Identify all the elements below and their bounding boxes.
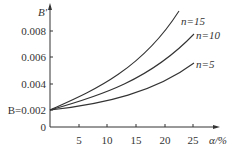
series-label-n10: n=10 [196,29,220,41]
series-label-n5: n=5 [196,58,215,70]
curve-n5 [50,63,194,110]
y-tick-label: 0.004 [21,78,46,90]
chart: B′ 0.008 0.006 0.004 B=0.002 0 5 10 15 2… [0,0,237,152]
series-label-n15: n=15 [181,15,205,27]
y-tick-label: 0.008 [21,25,46,37]
x-axis-arrow-icon [213,125,220,129]
curve-n15 [50,11,179,110]
y-axis-label: B′ [38,6,48,18]
x-tick-label: 5 [76,134,82,146]
x-tick-label: 25 [188,134,200,146]
x-tick-label: 15 [131,134,143,146]
y-tick-label: B=0.002 [8,104,46,116]
x-tick-label: 10 [102,134,114,146]
x-axis-label: α/% [209,134,227,146]
x-tick-label: 20 [160,134,172,146]
y-tick-label: 0.006 [21,51,46,63]
y-axis-arrow-icon [48,3,52,10]
y-tick-label: 0 [41,121,47,133]
